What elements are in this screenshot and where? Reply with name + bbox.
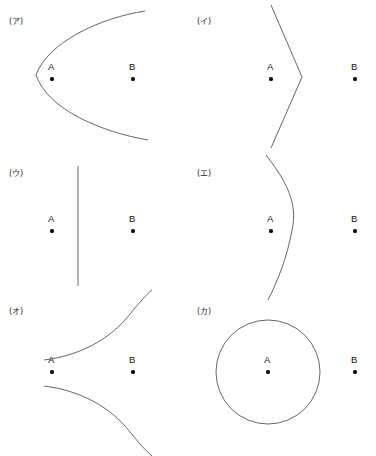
panel-d-label: (エ)	[197, 169, 211, 179]
panel-b-label: (イ)	[197, 17, 211, 27]
panel-a-label: (ア)	[9, 17, 23, 27]
point-b-label: B	[351, 214, 357, 224]
panel-c-label: (ウ)	[9, 169, 23, 179]
panel-e: (オ) A B	[0, 290, 188, 456]
arc-path	[266, 155, 294, 300]
point-b-label: B	[351, 62, 357, 72]
point-a-dot	[266, 370, 269, 373]
point-a-label: A	[48, 62, 54, 72]
hyperbola-lower-path	[44, 386, 152, 456]
point-b-dot	[131, 77, 134, 80]
point-b-label: B	[351, 355, 357, 365]
point-a-label: A	[264, 355, 270, 365]
panel-b: (イ) A B	[188, 0, 376, 152]
point-a-dot	[269, 229, 272, 232]
hyperbola-upper-path	[44, 290, 152, 360]
point-a-dot	[50, 370, 53, 373]
point-a-label: A	[48, 214, 54, 224]
point-a-label: A	[267, 214, 273, 224]
point-a-label: A	[267, 62, 273, 72]
panel-a: (ア) A B	[0, 0, 188, 152]
point-b-label: B	[129, 62, 135, 72]
panel-f-label: (カ)	[197, 307, 211, 317]
panel-a-curve	[0, 0, 188, 166]
parabola-path	[36, 11, 148, 140]
panel-c: (ウ) A B	[0, 152, 188, 304]
point-a-dot	[50, 77, 53, 80]
point-b-dot	[131, 370, 134, 373]
panel-d: (エ) A B	[188, 152, 376, 304]
figure-sheet: (ア) A B (イ) A B (ウ) A	[0, 0, 376, 456]
panel-e-curve	[0, 290, 188, 456]
panel-b-curve	[188, 0, 376, 166]
point-b-label: B	[129, 355, 135, 365]
panel-e-label: (オ)	[9, 307, 23, 317]
panel-f: (カ) A B	[188, 290, 376, 456]
angle-path	[271, 5, 302, 148]
point-b-dot	[131, 229, 134, 232]
point-b-dot	[353, 370, 356, 373]
point-b-dot	[353, 77, 356, 80]
point-b-dot	[353, 229, 356, 232]
panel-f-curve	[188, 290, 376, 456]
point-a-dot	[50, 229, 53, 232]
point-a-dot	[269, 77, 272, 80]
point-b-label: B	[129, 214, 135, 224]
point-a-label: A	[48, 355, 54, 365]
